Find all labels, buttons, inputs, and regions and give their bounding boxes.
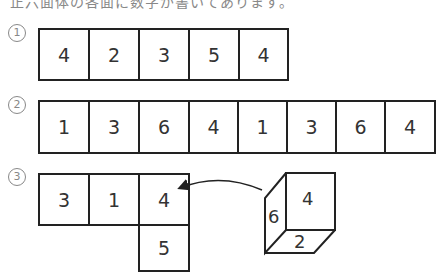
arrow-icon	[180, 180, 262, 190]
cube-front-label: 4	[302, 188, 313, 209]
cube-left-label: 6	[268, 206, 279, 227]
cube-bottom-label: 2	[294, 231, 305, 252]
